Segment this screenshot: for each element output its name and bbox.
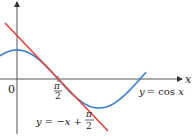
tangent-line <box>5 23 108 131</box>
graph: x 0 π 2 y= cos x y = −x + π 2 <box>0 0 194 136</box>
tangent-label-numerator: π <box>85 109 93 119</box>
x-axis-label: x <box>185 73 192 86</box>
tangent-line-label: y = −x + <box>35 116 82 127</box>
origin-label: 0 <box>8 83 15 96</box>
tick-label-numerator: π <box>53 81 61 91</box>
tick-label-denominator: 2 <box>55 91 61 101</box>
cos-curve-label: y= cos x <box>138 86 184 97</box>
tangent-label-denominator: 2 <box>86 121 92 131</box>
